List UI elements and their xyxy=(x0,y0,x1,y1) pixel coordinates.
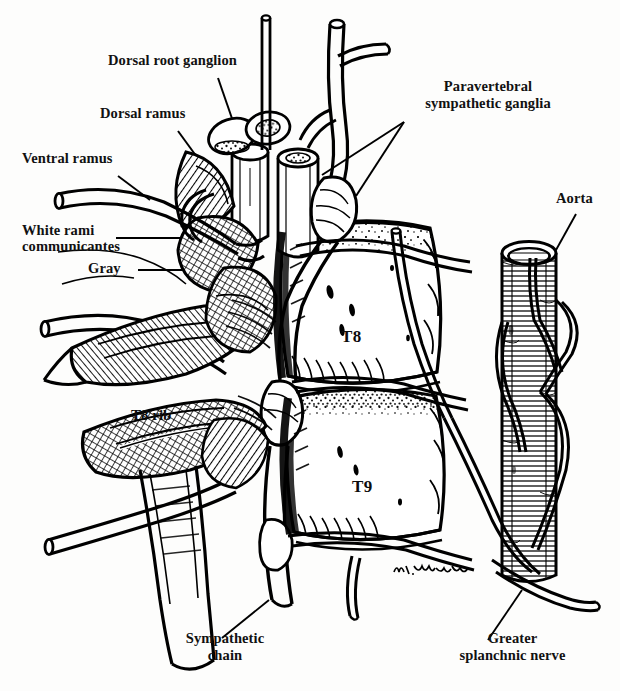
label-gray: Gray xyxy=(88,260,121,276)
label-t9-body: T9 xyxy=(352,477,372,497)
label-paravertebral-line1: Paravertebral xyxy=(398,78,578,94)
label-greater-splanchnic-line1: Greater xyxy=(430,630,595,646)
label-t8-body: T8 xyxy=(341,327,361,347)
label-dorsal-ramus: Dorsal ramus xyxy=(100,105,185,121)
paravertebral-ganglion-upper xyxy=(311,177,356,242)
anatomy-figure: Dorsal root ganglion Dorsal ramus Ventra… xyxy=(0,0,620,691)
label-sympathetic-line1: Sympathetic xyxy=(160,630,290,646)
label-sympathetic-line2: chain xyxy=(160,647,290,663)
label-dorsal-root-ganglion: Dorsal root ganglion xyxy=(108,52,237,68)
label-t8-rib: T8 rib xyxy=(131,407,171,424)
label-greater-splanchnic-line2: splanchnic nerve xyxy=(430,647,595,663)
label-white-rami-line2: communicantes xyxy=(22,238,120,254)
label-paravertebral-line2: sympathetic ganglia xyxy=(398,95,578,111)
label-white-rami-line1: White rami xyxy=(22,222,94,238)
t9-vertebral-body xyxy=(286,382,458,550)
label-aorta: Aorta xyxy=(556,190,593,206)
label-ventral-ramus: Ventral ramus xyxy=(22,150,113,166)
